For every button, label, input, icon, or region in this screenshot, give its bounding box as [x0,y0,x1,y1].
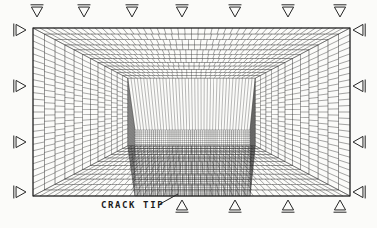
support-top-4 [229,5,242,17]
support-top-1 [78,5,91,17]
support-top-6 [334,5,347,17]
support-top-3 [176,5,189,17]
support-right-1 [353,80,365,93]
support-right-3 [353,186,365,199]
support-top-2 [126,5,139,17]
support-left-1 [14,80,26,93]
support-symbols [14,5,365,212]
support-right-2 [353,136,365,149]
crack-tip-label: CRACK TIP [101,201,164,210]
support-bottom-1 [229,200,242,212]
support-left-0 [14,24,26,37]
support-right-0 [353,24,365,37]
mesh-diagram [0,0,377,228]
support-top-5 [282,5,295,17]
support-bottom-2 [282,200,295,212]
mesh-lines [33,28,350,196]
support-left-3 [14,186,26,199]
support-bottom-0 [176,200,189,212]
figure-canvas: CRACK TIP [0,0,377,228]
support-left-2 [14,136,26,149]
support-top-0 [31,5,44,17]
support-bottom-3 [334,200,347,212]
